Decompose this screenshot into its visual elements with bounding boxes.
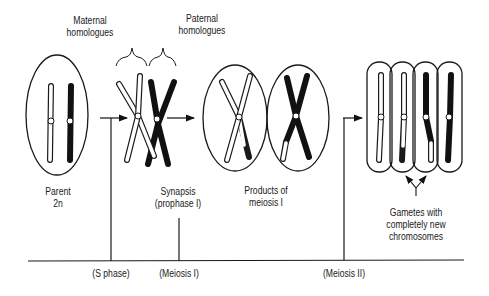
- paternal-homologues-label: Paternalhomologues: [176, 13, 228, 37]
- products-label: Products ofmeiosis I: [240, 185, 292, 209]
- meiosis-1-label: (Meiosis I): [158, 268, 201, 280]
- meiosis-I-products: [203, 65, 329, 171]
- parent-cell: [26, 55, 88, 175]
- synapsis-label: Synapsis(prophase I): [152, 186, 204, 210]
- paternal-brace-icon: [149, 48, 176, 66]
- gametes: [367, 62, 462, 196]
- meiosis-2-label: (Meiosis II): [320, 268, 368, 280]
- maternal-brace-icon: [116, 48, 147, 66]
- gametes-label: Gametes withcompletely newchromosomes: [386, 207, 446, 243]
- s-phase-label: (S phase): [90, 268, 133, 280]
- meiosis-diagram: [0, 0, 489, 296]
- maternal-homologues-label: Maternalhomologues: [64, 15, 116, 39]
- parent-label: Parent2n: [37, 186, 80, 210]
- synapsis-tetrad: [119, 76, 174, 164]
